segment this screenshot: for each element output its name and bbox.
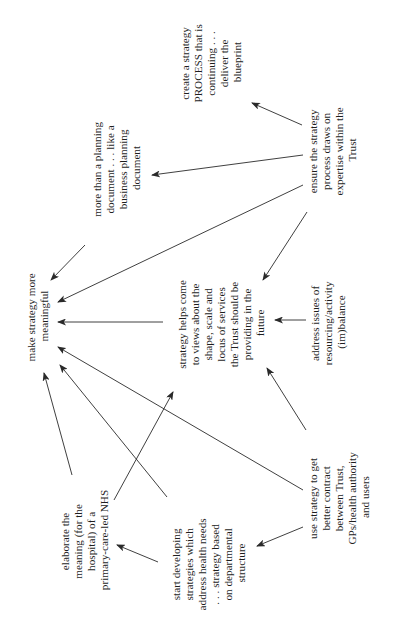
node-text-line: (im)balance [335,295,348,348]
edge-start-to-make [60,365,167,497]
node-text-line: PROCESS that is [192,24,204,102]
node-text-line: on departmental [222,528,234,600]
node-use-strategy-better-contract: use strategy to get better contract betw… [307,449,371,544]
node-text-line: document . . . like a [104,125,116,213]
node-text-line: blueprint [231,41,243,82]
svg-text:create a strategy PROCES: create a strategy PROCESS that is contin… [179,21,243,102]
node-text-line: . . . strategy based [209,524,221,605]
edge-ensure-to-helps [263,212,307,280]
node-elaborate-meaning-nhs: elaborate the meaning (for the hospital)… [59,490,110,590]
node-text-line: Trust [346,138,358,162]
node-strategy-helps-come-to-views: strategy helps come to views about the s… [176,277,266,369]
node-text-line: future [254,310,266,337]
node-text-line: better contract [320,465,332,530]
influence-diagram: make strategy more meaningful more than … [0,0,393,643]
node-text-line: strategy helps come [176,280,188,369]
node-text-line: ensure the strategy [307,109,319,193]
node-text-line: address health needs [196,518,208,610]
node-text-line: more than a planning [91,122,103,217]
node-text-line: and users [359,476,371,518]
node-text-line: providing in the [241,289,253,361]
edge-ensure-to-create [252,103,302,125]
node-make-strategy-meaningful: make strategy more meaningful [25,270,50,361]
svg-text:ensure the strategy proc: ensure the strategy process draws on exp… [307,104,358,195]
node-text-line: address issues of [309,286,321,361]
edge-ensure-to-more-than [152,155,303,175]
svg-text:address issues of resour: address issues of resourcing/activity (i… [309,279,348,366]
svg-text:start developing strateg: start developing strategies which addres… [170,516,247,611]
svg-text:strategy helps come to v: strategy helps come to views about the s… [176,277,266,369]
svg-text:elaborate the meaning (f: elaborate the meaning (for the hospital)… [59,490,110,590]
node-text-line: between Trust, [333,465,345,531]
node-text-line: process draws on [320,112,332,189]
edge-elaborate-to-make [44,373,72,475]
node-text-line: make strategy more [25,273,37,361]
node-text-line: GPs/health authority [346,452,358,545]
svg-text:make strategy more meani: make strategy more meaningful [25,270,50,361]
node-text-line: expertise within the [333,107,345,195]
node-text-line: business planning [117,129,129,209]
node-text-line: start developing [170,528,182,600]
node-text-line: hospital) of a [85,512,98,571]
edge-elaborate-to-helps [114,392,173,500]
node-ensure-strategy-process: ensure the strategy process draws on exp… [307,104,358,195]
node-text-line: meaning (for the [72,504,85,579]
node-text-line: document [130,145,142,190]
node-start-developing-strategies: start developing strategies which addres… [170,516,247,611]
node-text-line: create a strategy [179,27,191,100]
edge-start-to-elaborate [117,545,158,562]
node-text-line: structure [235,543,247,582]
edge-use-to-helps [267,368,306,430]
edge-more-than-to-make [51,245,85,280]
node-text-line: continuing . . . [205,31,217,96]
node-text-line: deliver the [218,40,230,88]
node-text-line: strategies which [183,528,195,601]
edge-use-to-start [257,527,303,546]
node-text-line: primary-care-led NHS [98,490,110,590]
node-text-line: shape, scale and [202,288,214,361]
svg-text:more than a planning doc: more than a planning document . . . like… [91,119,142,217]
node-text-line: the Trust should be [228,282,240,368]
node-create-strategy-process: create a strategy PROCESS that is contin… [179,21,243,102]
node-text-line: meaningful [38,291,50,342]
svg-text:use strategy to get bett: use strategy to get better contract betw… [307,449,371,544]
node-text-line: elaborate the [59,513,71,570]
node-text-line: to views about the [189,284,201,366]
node-text-line: resourcing/activity [322,281,334,365]
node-address-resourcing-imbalance: address issues of resourcing/activity (i… [309,279,348,366]
node-text-line: use strategy to get [307,457,319,539]
node-more-than-planning-document: more than a planning document . . . like… [91,119,142,217]
node-text-line: locus of services [215,287,227,362]
